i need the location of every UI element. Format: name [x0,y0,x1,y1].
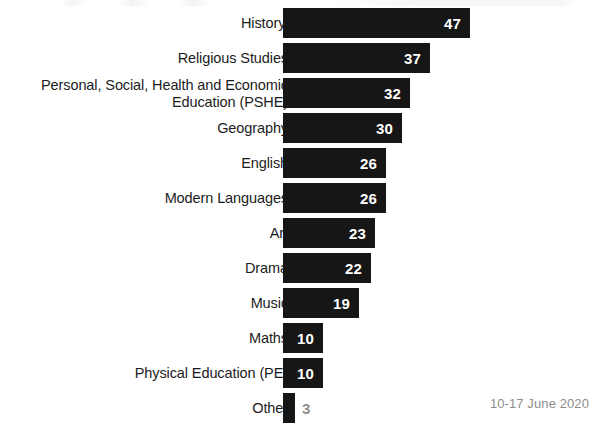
bar: 19 [283,288,359,318]
bar: 10 [283,358,323,388]
bar: 22 [283,253,371,283]
bar-value-label: 23 [349,225,366,242]
bar-value-label: 30 [376,120,393,137]
bar: 37 [283,43,430,73]
date-range-caption: 10-17 June 2020 [490,396,589,411]
bar-value-label: 26 [360,155,377,172]
bar-row: History'47 [0,8,599,38]
bar: 26 [283,183,386,213]
bar: 26 [283,148,386,178]
bar-row: Art23 [0,218,599,248]
bar-category-label: English [241,155,288,172]
bar: 32 [283,78,410,108]
bar-row: Maths10 [0,323,599,353]
bar-row: English26 [0,148,599,178]
bar-value-label: 19 [333,295,350,312]
bar-category-label: History' [241,15,288,32]
bar-row: Physical Education (PE)10 [0,358,599,388]
bar-category-label: Religious Studies [178,50,288,67]
bar: 47 [283,8,470,38]
bar-row: Modern Languages26 [0,183,599,213]
bar: 23 [283,218,375,248]
bar-value-label: 47 [444,15,461,32]
bar-row: Religious Studies37 [0,43,599,73]
bar-value-label: 22 [345,260,362,277]
bar-row: Music19 [0,288,599,318]
bar-category-label: Modern Languages [165,190,288,207]
bar-value-label: 26 [360,190,377,207]
bar-value-label: 32 [384,85,401,102]
bar-value-label: 10 [297,330,314,347]
bar-category-label: Physical Education (PE) [135,365,288,382]
bar-category-label: Drama [245,260,288,277]
bar-category-label: Geography [217,120,288,137]
bar-row: Drama22 [0,253,599,283]
bar: 3 [283,393,295,423]
bar-row: Geography30 [0,113,599,143]
bar: 30 [283,113,402,143]
bar-category-label: Personal, Social, Health and Economic Ed… [41,77,288,110]
horizontal-bar-chart: History'47Religious Studies37Personal, S… [0,0,599,432]
bar: 10 [283,323,323,353]
bar-value-label: 37 [404,50,421,67]
bar-row: Personal, Social, Health and Economic Ed… [0,78,599,108]
bar-value-label: 3 [302,400,311,417]
bar-value-label: 10 [297,365,314,382]
